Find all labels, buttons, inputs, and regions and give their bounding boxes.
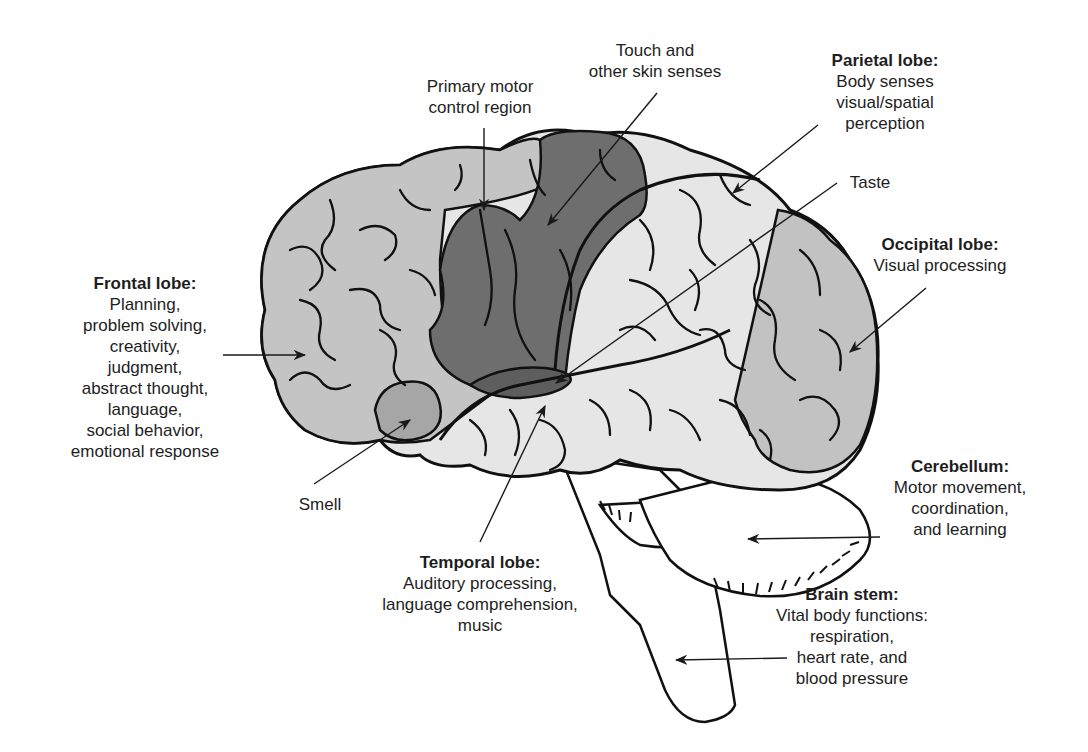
parietal-line: visual/spatial: [810, 92, 960, 113]
parietal-arrow: [733, 125, 818, 193]
frontal-line: language,: [50, 399, 240, 420]
frontal-line: creativity,: [50, 336, 240, 357]
brainstem-line: heart rate, and: [752, 647, 952, 668]
smell-line: Smell: [290, 494, 350, 515]
cerebellum-line: Motor movement,: [870, 477, 1050, 498]
frontal-line: emotional response: [50, 441, 240, 462]
occipital-line: Visual processing: [855, 255, 1025, 276]
touch-line: Touch and: [570, 40, 740, 61]
brain-stem-label: Brain stem: Vital body functions: respir…: [752, 584, 952, 689]
frontal-line: Planning,: [50, 294, 240, 315]
frontal-line: abstract thought,: [50, 378, 240, 399]
motor-line: control region: [405, 97, 555, 118]
cerebellum-line: coordination,: [870, 498, 1050, 519]
smell-region: [375, 381, 441, 440]
frontal-line: problem solving,: [50, 315, 240, 336]
smell-label: Smell: [290, 494, 350, 515]
parietal-line: Body senses: [810, 71, 960, 92]
brain-stem-title: Brain stem:: [752, 584, 952, 605]
temporal-lobe-label: Temporal lobe: Auditory processing, lang…: [355, 552, 605, 636]
parietal-lobe-label: Parietal lobe: Body senses visual/spatia…: [810, 50, 960, 134]
cerebellum-label: Cerebellum: Motor movement, coordination…: [870, 456, 1050, 540]
frontal-lobe-label: Frontal lobe: Planning, problem solving,…: [50, 273, 240, 462]
brainstem-line: respiration,: [752, 626, 952, 647]
taste-line: Taste: [840, 172, 900, 193]
touch-line: other skin senses: [570, 61, 740, 82]
temporal-line: Auditory processing,: [355, 573, 605, 594]
motor-region-label: Primary motor control region: [405, 76, 555, 118]
frontal-line: social behavior,: [50, 420, 240, 441]
touch-label: Touch and other skin senses: [570, 40, 740, 82]
temporal-lobe-title: Temporal lobe:: [355, 552, 605, 573]
parietal-lobe-title: Parietal lobe:: [810, 50, 960, 71]
occipital-lobe-title: Occipital lobe:: [855, 234, 1025, 255]
brainstem-line: blood pressure: [752, 668, 952, 689]
frontal-lobe-title: Frontal lobe:: [50, 273, 240, 294]
motor-line: Primary motor: [405, 76, 555, 97]
temporal-line: language comprehension,: [355, 594, 605, 615]
occipital-lobe-label: Occipital lobe: Visual processing: [855, 234, 1025, 276]
taste-label: Taste: [840, 172, 900, 193]
frontal-line: judgment,: [50, 357, 240, 378]
cerebellum-line: and learning: [870, 519, 1050, 540]
cerebellum-title: Cerebellum:: [870, 456, 1050, 477]
brainstem-line: Vital body functions:: [752, 605, 952, 626]
temporal-line: music: [355, 615, 605, 636]
parietal-line: perception: [810, 113, 960, 134]
